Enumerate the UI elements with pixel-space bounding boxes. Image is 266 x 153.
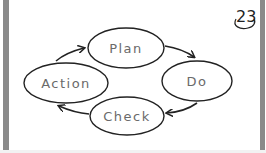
page-number: 23 [235,7,256,29]
node-action-label: Action [41,76,91,91]
node-action: Action [24,63,108,103]
page-number-text: 23 [236,7,256,26]
node-plan: Plan [88,28,164,68]
arrow-plan-to-do [165,46,194,57]
node-check-label: Check [103,109,151,124]
node-check: Check [90,97,164,135]
node-do: Do [162,61,232,101]
node-do-label: Do [187,74,208,89]
pdca-cycle-diagram: 23 Plan Do Check Action [0,0,266,153]
arrow-check-to-action [59,106,89,114]
arrow-do-to-check [167,103,197,113]
arrow-action-to-plan [56,48,84,61]
node-plan-label: Plan [109,41,143,56]
